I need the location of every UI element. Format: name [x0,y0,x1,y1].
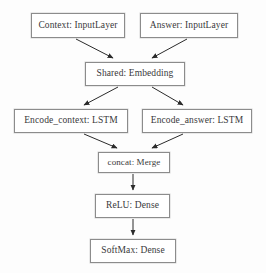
edge-shared-to-encode-context [84,87,118,105]
edge-answer-to-shared [152,39,187,58]
model-architecture-diagram: Context: InputLayer Answer: InputLayer S… [0,0,266,273]
node-context-label: Context: InputLayer [38,21,117,31]
node-softmax-dense[interactable]: SoftMax: Dense [90,239,176,263]
node-relu-dense[interactable]: ReLU: Dense [95,194,170,218]
node-context-inputlayer[interactable]: Context: InputLayer [31,13,125,38]
node-shared-embedding[interactable]: Shared: Embedding [85,62,185,86]
node-encode-answer-label: Encode_answer: LSTM [151,116,243,126]
edge-encode-answer-to-concat [152,134,183,148]
edge-shared-to-encode-answer [152,87,183,105]
edge-encode-context-to-concat [84,134,117,148]
node-relu-label: ReLU: Dense [106,201,159,211]
node-softmax-label: SoftMax: Dense [101,246,164,256]
node-answer-inputlayer[interactable]: Answer: InputLayer [140,13,238,38]
node-encode-context-lstm[interactable]: Encode_context: LSTM [14,109,128,133]
diagram-edges [0,0,266,273]
node-concat-label: concat: Merge [108,158,161,167]
node-answer-label: Answer: InputLayer [150,21,229,31]
edge-context-to-shared [76,39,113,58]
node-encode-answer-lstm[interactable]: Encode_answer: LSTM [142,109,252,133]
node-encode-context-label: Encode_context: LSTM [24,116,118,126]
node-shared-label: Shared: Embedding [97,69,174,79]
node-concat-merge[interactable]: concat: Merge [98,152,170,173]
